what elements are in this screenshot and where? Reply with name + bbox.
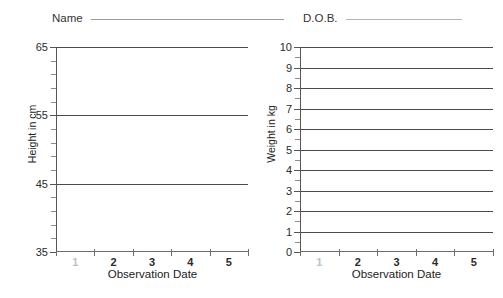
weight-gridline	[300, 150, 493, 151]
weight-x-axis-title: Observation Date	[300, 268, 493, 280]
weight-x-tick-label: 4	[432, 256, 438, 268]
weight-x-tick-label: 5	[471, 256, 477, 268]
dob-field[interactable]: D.O.B.	[303, 12, 462, 24]
name-input-rule[interactable]	[91, 19, 284, 20]
height-plot-canvas: 3545556512345	[56, 47, 248, 252]
weight-y-tick-label: 6	[286, 123, 292, 135]
height-x-tick-label: 4	[187, 256, 193, 268]
weight-x-tick-label: 3	[393, 256, 399, 268]
weight-gridline	[300, 211, 493, 212]
weight-x-axis-line	[300, 251, 493, 252]
weight-x-tick-label: 1	[316, 256, 322, 268]
height-y-tick-label: 35	[36, 246, 48, 258]
height-y-axis-line	[56, 47, 57, 252]
weight-y-tick-label: 2	[286, 205, 292, 217]
weight-y-axis-line	[300, 47, 301, 252]
height-gridline	[56, 184, 248, 185]
height-x-tick	[248, 249, 249, 256]
height-x-axis-line	[56, 251, 248, 252]
weight-gridline	[300, 68, 493, 69]
weight-gridline	[300, 88, 493, 89]
dob-input-rule[interactable]	[346, 19, 462, 20]
height-y-tick-label: 55	[36, 109, 48, 121]
height-x-tick-label: 5	[226, 256, 232, 268]
height-y-tick-label: 45	[36, 178, 48, 190]
weight-y-tick-label: 5	[286, 144, 292, 156]
weight-y-tick-label: 1	[286, 226, 292, 238]
weight-chart: Weight in kg 01234567891012345 Observati…	[252, 40, 495, 298]
weight-y-axis-title: Weight in kg	[265, 102, 277, 166]
weight-y-tick-label: 7	[286, 103, 292, 115]
weight-y-tick-label: 4	[286, 164, 292, 176]
dob-label: D.O.B.	[303, 12, 338, 24]
name-label: Name	[52, 12, 83, 24]
weight-gridline	[300, 129, 493, 130]
weight-y-tick-label: 8	[286, 82, 292, 94]
weight-x-tick-label: 2	[355, 256, 361, 268]
weight-y-tick-label: 3	[286, 185, 292, 197]
weight-plot-canvas: 01234567891012345	[300, 47, 493, 252]
name-field[interactable]: Name	[52, 12, 284, 24]
height-y-tick-label: 65	[36, 41, 48, 53]
height-gridline	[56, 115, 248, 116]
weight-y-tick-label: 9	[286, 62, 292, 74]
weight-plot-area: 01234567891012345	[300, 47, 493, 252]
height-x-tick-label: 2	[111, 256, 117, 268]
height-x-tick-label: 1	[72, 256, 78, 268]
height-gridline	[56, 47, 248, 48]
weight-y-tick-label: 0	[286, 246, 292, 258]
height-plot-area: 3545556512345	[56, 47, 248, 252]
weight-gridline	[300, 191, 493, 192]
weight-gridline	[300, 232, 493, 233]
height-x-axis-title: Observation Date	[56, 268, 249, 280]
weight-gridline	[300, 47, 493, 48]
form-header: Name D.O.B.	[0, 0, 503, 34]
height-x-tick-label: 3	[149, 256, 155, 268]
weight-gridline	[300, 109, 493, 110]
weight-gridline	[300, 170, 493, 171]
height-chart: Height in cm 3545556512345 Observation D…	[8, 40, 248, 298]
weight-y-tick-label: 10	[280, 41, 292, 53]
weight-x-tick	[493, 249, 494, 256]
